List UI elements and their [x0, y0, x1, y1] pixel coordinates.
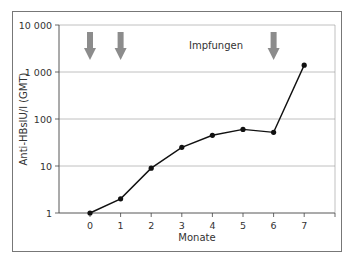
data-point: [149, 166, 154, 171]
line-chart: 1101001 00010 00001234567 Impfungen Mona…: [0, 0, 351, 267]
x-tick-label: 0: [87, 220, 93, 231]
arrow-head-icon: [268, 48, 280, 60]
arrow-down-icon: [118, 32, 124, 50]
arrow-down-icon: [271, 32, 277, 50]
x-tick-label: 1: [118, 220, 124, 231]
data-point: [240, 127, 245, 132]
x-axis-label: Monate: [178, 232, 215, 243]
data-point: [271, 130, 276, 135]
arrow-down-icon: [87, 32, 93, 50]
x-tick-label: 2: [148, 220, 154, 231]
data-point: [179, 145, 184, 150]
data-point: [87, 210, 92, 215]
data-line: [90, 65, 304, 213]
y-tick-label: 10 000: [19, 20, 52, 31]
x-tick-label: 6: [271, 220, 277, 231]
data-point: [210, 133, 215, 138]
vaccination-arrows: [84, 32, 280, 60]
axes: 1101001 00010 00001234567: [19, 20, 335, 232]
x-tick-label: 4: [209, 220, 215, 231]
arrow-head-icon: [115, 48, 127, 60]
y-axis-label: Anti-HBsIU/l (GMT): [18, 72, 29, 165]
y-tick-label: 10: [40, 161, 52, 172]
x-tick-label: 3: [179, 220, 185, 231]
y-tick-label: 1: [46, 208, 52, 219]
data-series: [87, 63, 306, 216]
x-tick-label: 7: [301, 220, 307, 231]
y-tick-label: 100: [34, 114, 52, 125]
arrow-head-icon: [84, 48, 96, 60]
annotation-label: Impfungen: [189, 40, 243, 51]
x-tick-label: 5: [240, 220, 246, 231]
data-point: [118, 196, 123, 201]
data-point: [302, 63, 307, 68]
